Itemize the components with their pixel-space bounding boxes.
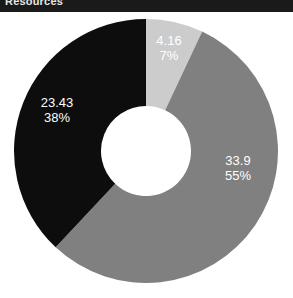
donut-chart-svg (0, 0, 293, 298)
resources-chart-panel: Resources 4.16 7% 33.9 55% 23.43 38% (0, 0, 293, 298)
donut-chart: 4.16 7% 33.9 55% 23.43 38% (0, 0, 293, 298)
donut-slice-group (14, 19, 278, 283)
